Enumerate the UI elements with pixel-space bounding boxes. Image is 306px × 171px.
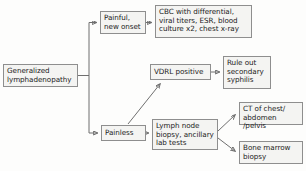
node-painless[interactable]: Painless bbox=[101, 125, 146, 141]
node-bone-marrow-biopsy[interactable]: Bone marrow biopsy bbox=[239, 141, 303, 164]
node-painful-new-onset[interactable]: Painful, new onset bbox=[100, 11, 146, 34]
node-rule-out-secondary-syphilis[interactable]: Rule out secondary syphilis bbox=[223, 56, 271, 89]
node-generalized-lymphadenopathy[interactable]: Generalized lymphadenopathy bbox=[3, 64, 78, 87]
edge-biopsy-to-ct bbox=[218, 115, 235, 131]
edge-painless-to-vdrl bbox=[128, 84, 160, 124]
edge-biopsy-to-marrow bbox=[218, 138, 235, 151]
node-lymph-node-biopsy[interactable]: Lymph node biopsy, ancillary lab tests bbox=[152, 119, 218, 150]
flowchart-canvas: Generalized lymphadenopathy Painful, new… bbox=[0, 0, 306, 171]
node-cbc-workup[interactable]: CBC with differential, viral titers, ESR… bbox=[155, 5, 252, 38]
node-vdrl-positive[interactable]: VDRL positive bbox=[150, 64, 211, 80]
node-ct-chest-abdomen-pelvis[interactable]: CT of chest/ abdomen /pelvis bbox=[239, 102, 303, 125]
